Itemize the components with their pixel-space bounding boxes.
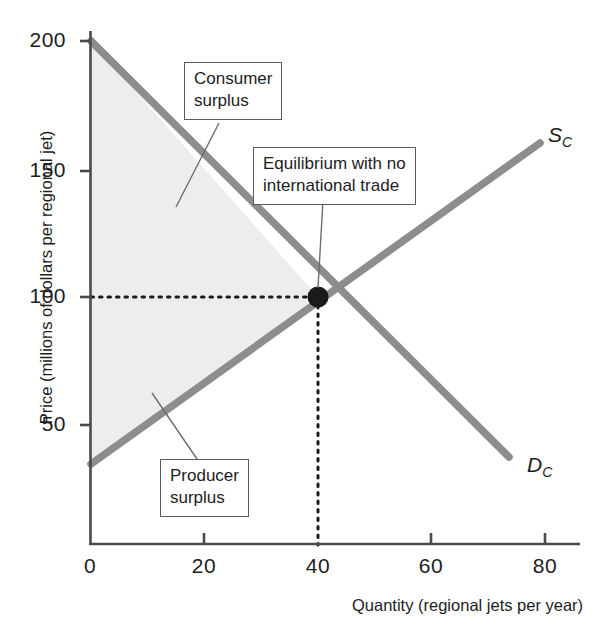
equilibrium-callout-line1: Equilibrium with no	[263, 153, 406, 175]
y-tick-label-200: 200	[6, 28, 66, 52]
producer-surplus-callout: Producer surplus	[160, 459, 249, 517]
demand-curve-label-letter: D	[527, 453, 542, 476]
producer-surplus-callout-line2: surplus	[170, 487, 239, 509]
economics-surplus-chart: 200 150 100 50 0 20 40 60 80 Price (mill…	[0, 0, 606, 626]
supply-curve-label-subscript: C	[562, 134, 572, 150]
demand-curve-label-subscript: C	[542, 464, 552, 480]
x-tick-label-80: 80	[515, 554, 575, 578]
supply-curve-label: SC	[548, 123, 572, 150]
x-axis-title: Quantity (regional jets per year)	[352, 596, 583, 615]
consumer-surplus-callout-line1: Consumer	[194, 68, 272, 90]
producer-surplus-callout-line1: Producer	[170, 465, 239, 487]
x-tick-label-0: 0	[60, 554, 120, 578]
consumer-surplus-callout: Consumer surplus	[184, 62, 282, 120]
x-tick-label-40: 40	[288, 554, 348, 578]
y-axis-title: Price (millions of dollars per regional …	[37, 128, 56, 428]
consumer-surplus-callout-line2: surplus	[194, 90, 272, 112]
equilibrium-callout: Equilibrium with no international trade	[253, 147, 416, 205]
plot-area	[0, 0, 606, 626]
supply-curve-label-letter: S	[548, 123, 562, 146]
equilibrium-callout-line2: international trade	[263, 175, 406, 197]
x-tick-label-20: 20	[174, 554, 234, 578]
x-tick-label-60: 60	[401, 554, 461, 578]
equilibrium-point-marker	[308, 287, 329, 308]
demand-curve-label: DC	[527, 453, 552, 480]
